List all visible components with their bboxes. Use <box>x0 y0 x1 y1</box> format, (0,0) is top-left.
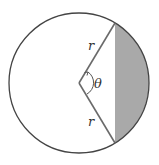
shaded-segment <box>115 23 149 143</box>
radius-label-lower: r <box>88 114 95 129</box>
angle-label: θ <box>94 76 102 91</box>
radius-label-upper: r <box>88 38 95 53</box>
circle-segment-diagram: r r θ <box>0 0 159 165</box>
radius-line-upper <box>79 23 115 83</box>
radius-line-lower <box>79 83 115 143</box>
angle-arc <box>87 72 94 94</box>
